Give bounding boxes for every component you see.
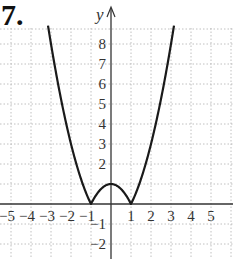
graph: y−5−4−3−2−1123458765432−1−2 (0, 0, 233, 259)
x-tick-label: −4 (19, 208, 35, 224)
y-tick-label: 2 (99, 156, 107, 172)
x-tick-label: 3 (167, 208, 175, 224)
y-tick-label: 3 (99, 136, 107, 152)
x-tick-label: −2 (59, 208, 75, 224)
y-tick-label: 5 (99, 96, 107, 112)
x-tick-label: 1 (127, 208, 135, 224)
x-tick-label: 2 (147, 208, 155, 224)
x-tick-label: −5 (0, 208, 15, 224)
y-tick-label: 8 (99, 36, 107, 52)
x-tick-label: −3 (39, 208, 55, 224)
y-tick-label: 6 (99, 76, 107, 92)
y-axis-label: y (94, 5, 104, 24)
y-tick-label: 4 (99, 116, 107, 132)
y-tick-label: −1 (90, 216, 106, 232)
y-tick-label: 7 (99, 56, 107, 72)
x-tick-label: 4 (187, 208, 195, 224)
x-tick-label: 5 (207, 208, 215, 224)
y-tick-label: −2 (90, 236, 106, 252)
